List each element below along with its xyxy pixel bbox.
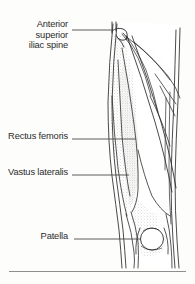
label-anterior-superior-iliac-spine: Anterior superior iliac spine [2, 19, 68, 51]
figure-panel: Anterior superior iliac spine Rectus fem… [0, 0, 195, 284]
label-patella: Patella [2, 231, 68, 242]
label-vastus-lateralis: Vastus lateralis [2, 167, 68, 178]
bottom-divider [9, 271, 186, 272]
patella-shape [141, 228, 164, 250]
label-rectus-femoris: Rectus femoris [2, 131, 68, 142]
